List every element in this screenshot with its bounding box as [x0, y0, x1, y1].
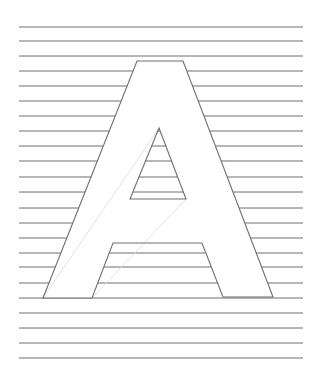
guide-line [43, 128, 159, 298]
ruled-letter-a-drawing: A [0, 0, 321, 374]
letter-a-counter-outline [130, 128, 186, 199]
faint-guide-lines [43, 128, 186, 298]
drawing-svg [0, 0, 321, 374]
letter-a-outline [43, 61, 273, 298]
